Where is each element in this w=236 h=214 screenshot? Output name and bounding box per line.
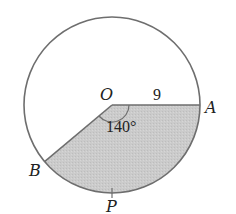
label-center-o: O: [100, 85, 113, 104]
label-angle: 140°: [106, 118, 136, 135]
label-point-a: A: [203, 98, 217, 117]
label-radius: 9: [153, 86, 161, 103]
label-point-b: B: [28, 161, 41, 180]
label-point-p: P: [105, 197, 117, 214]
circle-sector-diagram: O 9 A 140° B P: [0, 0, 236, 214]
